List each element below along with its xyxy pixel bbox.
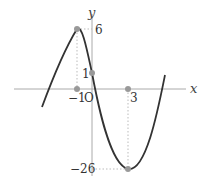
tick-y-neg26: −26 <box>70 162 95 176</box>
tick-x-3: 3 <box>130 91 138 105</box>
function-graph: y x 6 1 −1 O 3 −26 <box>0 0 218 185</box>
y-intercept-point <box>89 70 95 76</box>
tick-y-1: 1 <box>82 67 90 81</box>
min-point <box>125 166 131 172</box>
origin-label: O <box>84 91 94 105</box>
curve <box>42 28 165 169</box>
x-axis-label: x <box>190 81 198 96</box>
max-point <box>74 26 80 32</box>
tick-y-6: 6 <box>95 23 103 37</box>
y-axis-label: y <box>87 5 96 20</box>
